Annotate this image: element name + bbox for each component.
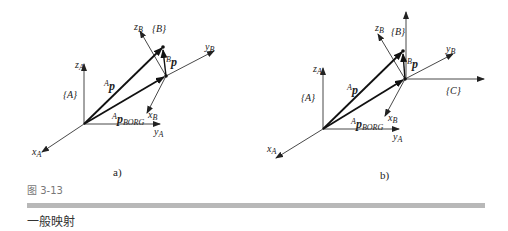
label-za-a: zA: [74, 59, 84, 72]
label-frame-b-b: {B}: [391, 26, 405, 37]
label-ap-b: Ap: [346, 83, 358, 97]
label-bp-b: Bp: [407, 57, 418, 71]
label-yb-b: yB: [445, 43, 455, 56]
origin-b-a: [164, 74, 168, 78]
diagram-canvas: zA {A} xA yA zB {B} yB xB Ap Bp ApBORG z…: [0, 0, 508, 180]
label-za-b: zA: [312, 63, 322, 76]
figure-title: 一般映射: [27, 212, 75, 229]
origin-b-b: [403, 77, 407, 81]
label-frame-a-a: {A}: [63, 89, 77, 100]
label-ya-a: yA: [153, 126, 163, 139]
figure-number: 图 3-13: [27, 182, 63, 197]
panel-b: zA {A} xA yA zB {B} yB xB {C} Ap Bp ApBO…: [266, 12, 484, 158]
label-apborg-b: ApBORG: [350, 117, 383, 132]
label-ap-a: Ap: [103, 79, 115, 93]
label-frame-a-b: {A}: [301, 92, 315, 103]
label-xb-a: xB: [147, 109, 157, 122]
label-zb-b: zB: [374, 22, 384, 35]
panel-a-label: a): [113, 166, 122, 178]
label-frame-b-a: {B}: [152, 23, 166, 34]
axis-zb-a: [140, 31, 166, 76]
point-p-a: [161, 45, 165, 49]
panel-a: zA {A} xA yA zB {B} yB xB Ap Bp ApBORG: [31, 21, 214, 159]
label-xa-a: xA: [31, 146, 41, 159]
label-zb-a: zB: [133, 21, 143, 34]
label-xa-b: xA: [266, 143, 276, 156]
axis-xa-a: [42, 124, 84, 152]
label-frame-c-b: {C}: [446, 85, 461, 96]
panel-b-label: b): [380, 169, 389, 181]
label-bp-a: Bp: [166, 55, 177, 69]
axis-xa-b: [276, 129, 323, 158]
label-xb-b: xB: [387, 112, 397, 125]
label-apborg-a: ApBORG: [111, 112, 144, 127]
label-ya-b: yA: [392, 131, 402, 144]
point-p-b: [401, 49, 405, 53]
caption-divider: [27, 203, 485, 208]
vector-bp-b: [403, 54, 405, 79]
label-yb-a: yB: [204, 41, 214, 54]
